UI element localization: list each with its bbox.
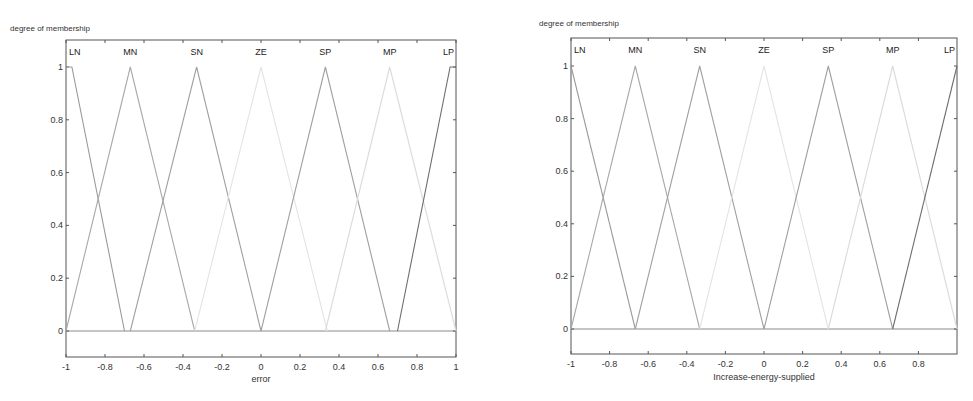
x-tick-label: 0.8 (912, 359, 925, 369)
mf-ze-line (700, 66, 829, 329)
mf-label-ze: ZE (758, 45, 770, 55)
x-tick-label: -0.6 (640, 359, 656, 369)
x-tick-label: 0 (761, 359, 766, 369)
y-tick-label: 0.6 (555, 166, 568, 176)
y-tick-label: 1 (563, 61, 568, 71)
x-tick-label: -0.2 (718, 359, 734, 369)
axes-frame (571, 38, 957, 354)
mf-label-mp: MP (886, 45, 900, 55)
mf-mn-line (571, 66, 700, 329)
plot-area: -1-0.8-0.6-0.4-0.200.20.40.60.800.20.40.… (0, 0, 973, 401)
x-tick-label: 0.6 (874, 359, 887, 369)
y-tick-label: 0 (563, 324, 568, 334)
mf-label-ln: LN (574, 45, 586, 55)
mf-mp-line (828, 66, 957, 329)
mf-label-mn: MN (628, 45, 642, 55)
mf-label-sp: SP (822, 45, 834, 55)
x-tick-label: 0.4 (835, 359, 848, 369)
y-tick-label: 0.4 (555, 219, 568, 229)
mf-label-lp: LP (944, 45, 955, 55)
y-axis-label: degree of membership (539, 19, 619, 28)
mf-label-sn: SN (693, 45, 706, 55)
y-tick-label: 0.2 (555, 271, 568, 281)
mf-sn-line (635, 66, 764, 329)
x-tick-label: -1 (567, 359, 575, 369)
chart-increase-energy-supplied: degree of membership Increase-energy-sup… (0, 0, 973, 401)
y-tick-label: 0.8 (555, 114, 568, 124)
x-axis-label: Increase-energy-supplied (713, 372, 815, 382)
mf-sp-line (764, 66, 893, 329)
x-tick-label: -0.8 (602, 359, 618, 369)
x-tick-label: 0.2 (796, 359, 809, 369)
x-tick-label: -0.4 (679, 359, 695, 369)
